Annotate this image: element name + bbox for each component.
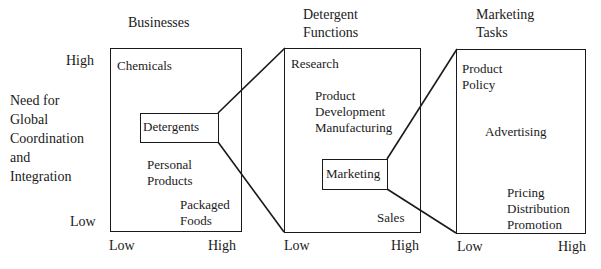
- panel-detergent-functions-x-high: High: [391, 237, 419, 255]
- panel-marketing-tasks-x-low: Low: [457, 238, 483, 256]
- item-product-policy: Product Policy: [462, 61, 502, 93]
- item-sales: Sales: [377, 210, 404, 226]
- item-marketing: Marketing: [326, 166, 380, 182]
- panel-detergent-functions-x-low: Low: [284, 237, 310, 255]
- panel-businesses-x-high: High: [208, 237, 236, 255]
- connector-detergents-top: [218, 48, 285, 113]
- item-product-development-manufacturing: Product Development Manufacturing: [315, 88, 392, 136]
- panel-marketing-tasks-x-high: High: [558, 238, 586, 256]
- item-packaged-foods: Packaged Foods: [180, 197, 230, 229]
- connector-marketing-top: [387, 49, 457, 159]
- item-pricing-distribution-promotion: Pricing Distribution Promotion: [507, 185, 570, 233]
- item-chemicals: Chemicals: [117, 58, 172, 74]
- item-research: Research: [291, 56, 339, 72]
- item-personal-products: Personal Products: [147, 157, 193, 189]
- panel-businesses-x-low: Low: [109, 237, 135, 255]
- item-detergents: Detergents: [143, 119, 199, 135]
- item-advertising: Advertising: [485, 124, 546, 140]
